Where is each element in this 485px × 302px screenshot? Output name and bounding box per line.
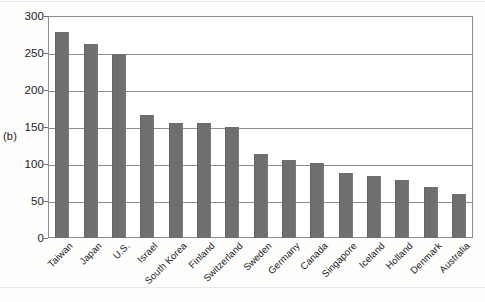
- gridline: [49, 165, 472, 166]
- y-axis-tick-label: 100: [4, 158, 44, 170]
- y-axis-tick-label: 250: [4, 47, 44, 59]
- y-axis: 050100150200250300: [0, 16, 44, 238]
- x-axis-tick-label: Israel: [135, 240, 160, 265]
- y-axis-tick-label: 0: [4, 232, 44, 244]
- gridline: [49, 54, 472, 55]
- y-axis-tick-label: 50: [4, 195, 44, 207]
- plot-area: [48, 16, 473, 238]
- y-axis-tick-label: 150: [4, 121, 44, 133]
- top-hairline: [0, 1, 485, 2]
- y-axis-tick-label: 300: [4, 10, 44, 22]
- gridline: [49, 91, 472, 92]
- gridline: [49, 202, 472, 203]
- x-axis-tick-label: Taiwan: [46, 240, 75, 269]
- y-axis-tick-mark: [44, 238, 48, 239]
- figure-panel-b: (b) 050100150200250300 TaiwanJapanU.S.Is…: [0, 0, 485, 302]
- x-axis-tick-label: Japan: [77, 240, 104, 267]
- x-axis-category-labels: TaiwanJapanU.S.IsraelSouth KoreaFinlandS…: [48, 240, 485, 302]
- x-axis-tick-label: U.S.: [110, 240, 131, 261]
- gridline: [49, 128, 472, 129]
- y-axis-tick-label: 200: [4, 84, 44, 96]
- x-axis-tick-label: Iceland: [356, 240, 386, 270]
